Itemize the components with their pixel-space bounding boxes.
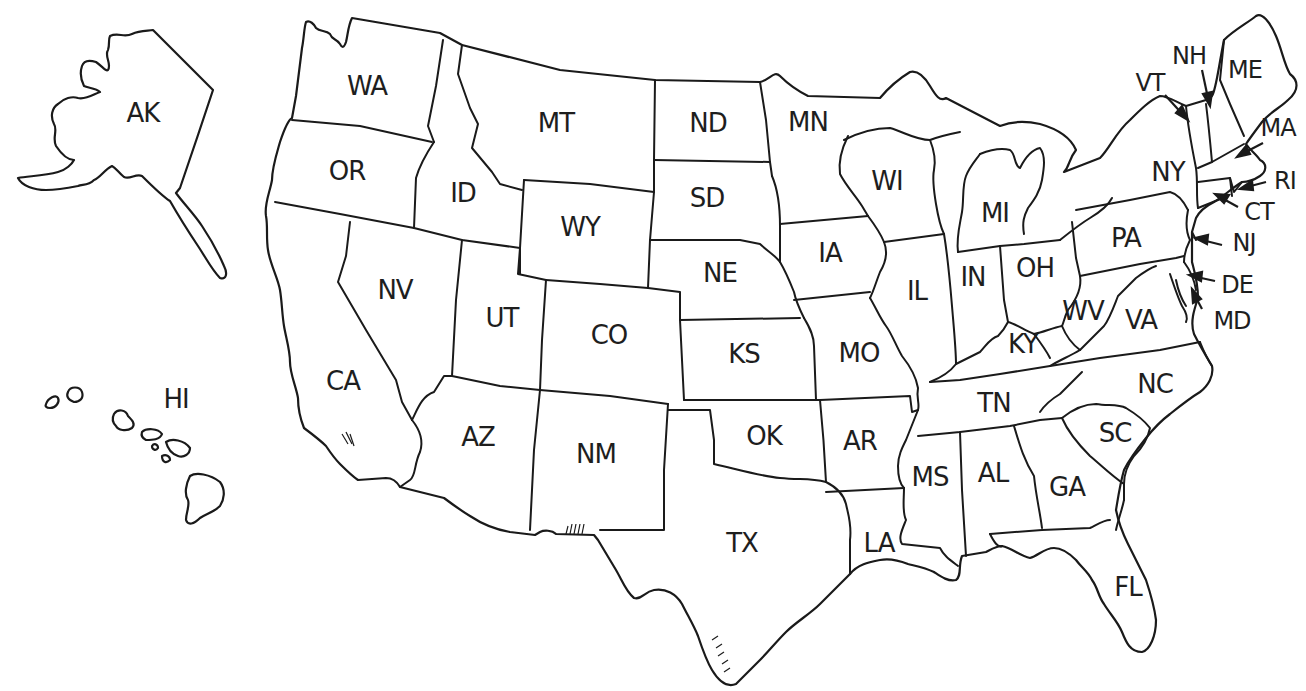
- state-label-in: IN: [960, 262, 985, 292]
- state-label-ri: RI: [1274, 167, 1296, 195]
- state-label-ut: UT: [486, 303, 520, 333]
- state-label-md: MD: [1213, 307, 1251, 335]
- state-label-wv: WV: [1062, 296, 1105, 326]
- state-label-nh: NH: [1172, 42, 1206, 70]
- state-label-va: VA: [1125, 305, 1158, 335]
- state-label-oh: OH: [1016, 253, 1054, 283]
- state-label-pa: PA: [1111, 223, 1142, 253]
- state-label-vt: VT: [1135, 69, 1165, 97]
- state-label-il: IL: [907, 276, 929, 306]
- state-label-ca: CA: [326, 366, 361, 396]
- state-label-id: ID: [450, 178, 476, 208]
- state-label-ks: KS: [728, 339, 760, 369]
- state-label-ma: MA: [1260, 114, 1297, 142]
- state-label-ok: OK: [746, 421, 783, 451]
- state-label-mn: MN: [788, 107, 828, 137]
- state-label-ky: KY: [1008, 329, 1039, 359]
- state-label-az: AZ: [461, 422, 495, 452]
- state-label-sd: SD: [690, 183, 725, 213]
- state-label-la: LA: [864, 528, 896, 558]
- state-label-me: ME: [1228, 56, 1262, 84]
- state-label-nd: ND: [689, 108, 726, 138]
- lower-48-outline: [266, 15, 1297, 685]
- state-label-tx: TX: [725, 528, 758, 558]
- state-label-mo: MO: [839, 338, 880, 368]
- state-label-wa: WA: [347, 71, 388, 101]
- state-label-fl: FL: [1114, 572, 1143, 602]
- state-label-wy: WY: [560, 212, 601, 242]
- state-label-wi: WI: [871, 166, 902, 196]
- state-label-ar: AR: [843, 426, 878, 456]
- state-label-sc: SC: [1099, 418, 1132, 448]
- alaska-shape: [18, 30, 226, 278]
- state-label-al: AL: [978, 458, 1010, 488]
- us-states-map: AKHIWAORIDMTWYNVUTCOCAAZNMNDSDNEKSOKTXMN…: [0, 0, 1306, 691]
- state-label-ak: AK: [127, 98, 162, 128]
- state-label-nm: NM: [576, 439, 616, 469]
- state-label-mi: MI: [981, 198, 1009, 228]
- state-label-tn: TN: [976, 388, 1010, 418]
- state-label-mt: MT: [538, 108, 575, 138]
- state-label-co: CO: [591, 320, 628, 350]
- state-label-or: OR: [329, 156, 366, 186]
- state-label-ny: NY: [1151, 157, 1185, 187]
- state-label-hi: HI: [163, 384, 188, 414]
- state-label-nv: NV: [377, 275, 413, 305]
- state-label-ia: IA: [818, 238, 843, 268]
- state-label-ne: NE: [703, 258, 737, 288]
- state-label-ga: GA: [1049, 472, 1086, 502]
- state-label-ct: CT: [1244, 198, 1275, 226]
- state-label-nj: NJ: [1232, 229, 1255, 257]
- state-label-de: DE: [1221, 271, 1253, 299]
- hawaii-shape: [46, 388, 224, 524]
- state-label-ms: MS: [912, 462, 949, 492]
- arrowhead-nj: [1195, 235, 1208, 244]
- state-label-nc: NC: [1137, 369, 1173, 399]
